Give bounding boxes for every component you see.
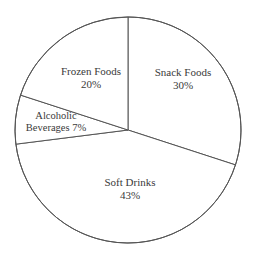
pie-chart: Snack Foods 30% Frozen Foods 20% Alcohol… bbox=[0, 0, 254, 255]
slice-label-alcoholic-beverages: Alcoholic Beverages 7% bbox=[8, 110, 104, 135]
slice-label-snack-foods-value: 30% bbox=[131, 79, 235, 92]
slice-label-alcoholic-beverages-name: Alcoholic bbox=[8, 110, 104, 122]
slice-label-frozen-foods-name: Frozen Foods bbox=[40, 65, 142, 78]
slice-label-soft-drinks: Soft Drinks 43% bbox=[78, 176, 182, 202]
slice-label-frozen-foods: Frozen Foods 20% bbox=[40, 65, 142, 91]
slice-label-frozen-foods-value: 20% bbox=[40, 78, 142, 91]
slice-label-snack-foods-name: Snack Foods bbox=[131, 66, 235, 79]
slice-label-soft-drinks-name: Soft Drinks bbox=[78, 176, 182, 189]
slice-label-soft-drinks-value: 43% bbox=[78, 189, 182, 202]
slice-label-alcoholic-beverages-value: Beverages 7% bbox=[8, 122, 104, 134]
slice-label-snack-foods: Snack Foods 30% bbox=[131, 66, 235, 92]
